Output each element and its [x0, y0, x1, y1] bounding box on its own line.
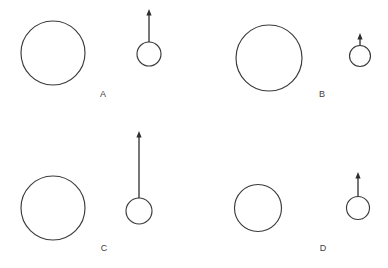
panel-a-large-circle: [21, 21, 85, 85]
panel-c: C: [21, 131, 152, 253]
panel-d-arrow-head: [355, 172, 360, 179]
figure-container: A B C D: [0, 0, 388, 268]
panel-c-small-circle: [126, 198, 152, 224]
four-panel-diagram: A B C D: [0, 0, 388, 268]
panel-a-label: A: [100, 89, 106, 99]
panel-c-label: C: [101, 243, 108, 253]
panel-d-small-circle: [347, 197, 370, 220]
panel-b-arrow-head: [357, 33, 362, 40]
panel-a-small-circle: [137, 42, 161, 66]
panel-b-large-circle: [236, 25, 302, 91]
panel-a: A: [21, 9, 161, 99]
panel-b-small-circle: [350, 46, 371, 67]
panel-d-large-circle: [235, 185, 282, 232]
panel-b-label: B: [319, 89, 325, 99]
panel-c-arrow-head: [136, 131, 141, 138]
panel-a-arrow-head: [146, 9, 151, 16]
panel-c-large-circle: [21, 176, 85, 240]
panel-d-label: D: [320, 243, 327, 253]
panel-b: B: [236, 25, 371, 99]
panel-d: D: [235, 172, 370, 253]
